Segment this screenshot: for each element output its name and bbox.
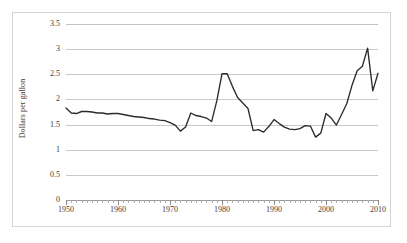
chart-figure: Dollars per gallon 00.511.522.533.5 1950… [0, 0, 407, 243]
data-series-layer [0, 0, 407, 243]
gasoline-price-line [66, 48, 378, 137]
